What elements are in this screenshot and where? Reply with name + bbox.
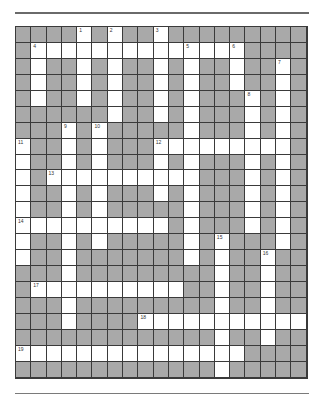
grid-cell-open[interactable] [62, 202, 77, 218]
grid-cell-open[interactable] [184, 170, 199, 186]
grid-cell-open[interactable] [184, 234, 199, 250]
grid-cell-open[interactable] [108, 218, 123, 234]
grid-cell-open[interactable] [62, 186, 77, 202]
grid-cell-open[interactable] [169, 139, 184, 155]
grid-cell-open[interactable] [123, 43, 138, 59]
grid-cell-open[interactable] [31, 218, 46, 234]
grid-cell-open[interactable] [276, 123, 291, 139]
grid-cell-open[interactable] [261, 330, 276, 346]
grid-cell-open[interactable] [215, 250, 230, 266]
grid-cell-open[interactable] [184, 123, 199, 139]
grid-cell-open[interactable] [47, 43, 62, 59]
grid-cell-open[interactable] [276, 234, 291, 250]
grid-cell-open[interactable] [138, 218, 153, 234]
grid-cell-open[interactable] [215, 346, 230, 362]
grid-cell-open[interactable] [62, 170, 77, 186]
grid-cell-open[interactable] [184, 202, 199, 218]
grid-cell-open[interactable]: 10 [92, 123, 107, 139]
grid-cell-open[interactable] [77, 43, 92, 59]
grid-cell-open[interactable] [276, 107, 291, 123]
grid-cell-open[interactable] [230, 59, 245, 75]
grid-cell-open[interactable] [62, 43, 77, 59]
grid-cell-open[interactable] [276, 170, 291, 186]
grid-cell-open[interactable] [92, 43, 107, 59]
grid-cell-open[interactable] [245, 139, 260, 155]
grid-cell-open[interactable] [215, 43, 230, 59]
grid-cell-open[interactable] [230, 75, 245, 91]
grid-cell-open[interactable]: 15 [215, 234, 230, 250]
grid-cell-open[interactable] [184, 107, 199, 123]
grid-cell-open[interactable] [154, 59, 169, 75]
grid-cell-open[interactable] [31, 346, 46, 362]
grid-cell-open[interactable] [16, 186, 31, 202]
grid-cell-open[interactable] [92, 282, 107, 298]
grid-cell-open[interactable]: 12 [154, 139, 169, 155]
grid-cell-open[interactable]: 3 [154, 27, 169, 43]
grid-cell-open[interactable] [16, 170, 31, 186]
grid-cell-open[interactable] [31, 91, 46, 107]
grid-cell-open[interactable] [123, 346, 138, 362]
grid-cell-open[interactable] [154, 43, 169, 59]
grid-cell-open[interactable] [62, 250, 77, 266]
grid-cell-open[interactable] [200, 314, 215, 330]
grid-cell-open[interactable] [245, 314, 260, 330]
grid-cell-open[interactable] [16, 234, 31, 250]
grid-cell-open[interactable] [200, 346, 215, 362]
grid-cell-open[interactable] [31, 75, 46, 91]
grid-cell-open[interactable] [245, 107, 260, 123]
grid-cell-open[interactable]: 18 [138, 314, 153, 330]
grid-cell-open[interactable] [261, 282, 276, 298]
grid-cell-open[interactable] [123, 282, 138, 298]
grid-cell-open[interactable] [169, 43, 184, 59]
grid-cell-open[interactable] [230, 314, 245, 330]
grid-cell-open[interactable] [47, 282, 62, 298]
grid-cell-open[interactable] [62, 298, 77, 314]
grid-cell-open[interactable] [92, 186, 107, 202]
grid-cell-open[interactable]: 19 [16, 346, 31, 362]
grid-cell-open[interactable] [276, 91, 291, 107]
grid-cell-open[interactable] [154, 107, 169, 123]
grid-cell-open[interactable] [138, 346, 153, 362]
grid-cell-open[interactable] [169, 346, 184, 362]
grid-cell-open[interactable] [276, 155, 291, 171]
grid-cell-open[interactable] [77, 346, 92, 362]
grid-cell-open[interactable]: 13 [47, 170, 62, 186]
grid-cell-open[interactable] [245, 218, 260, 234]
grid-cell-open[interactable] [92, 234, 107, 250]
grid-cell-open[interactable] [154, 346, 169, 362]
grid-cell-open[interactable] [245, 186, 260, 202]
grid-cell-open[interactable]: 2 [108, 27, 123, 43]
grid-cell-open[interactable] [62, 314, 77, 330]
grid-cell-open[interactable] [154, 91, 169, 107]
grid-cell-open[interactable] [230, 346, 245, 362]
grid-cell-open[interactable] [77, 59, 92, 75]
grid-cell-open[interactable] [92, 139, 107, 155]
grid-cell-open[interactable] [276, 218, 291, 234]
grid-cell-open[interactable] [92, 218, 107, 234]
grid-cell-open[interactable] [276, 139, 291, 155]
grid-cell-open[interactable] [261, 139, 276, 155]
grid-cell-open[interactable] [154, 186, 169, 202]
grid-cell-open[interactable] [16, 250, 31, 266]
grid-cell-open[interactable]: 6 [230, 43, 245, 59]
grid-cell-open[interactable] [154, 170, 169, 186]
grid-cell-open[interactable] [108, 43, 123, 59]
grid-cell-open[interactable] [92, 170, 107, 186]
grid-cell-open[interactable] [215, 139, 230, 155]
grid-cell-open[interactable] [47, 218, 62, 234]
grid-cell-open[interactable]: 7 [276, 59, 291, 75]
grid-cell-open[interactable] [245, 202, 260, 218]
grid-cell-open[interactable] [138, 282, 153, 298]
grid-cell-open[interactable]: 5 [184, 43, 199, 59]
grid-cell-open[interactable] [138, 170, 153, 186]
grid-cell-open[interactable] [138, 43, 153, 59]
grid-cell-open[interactable]: 11 [16, 139, 31, 155]
grid-cell-open[interactable] [108, 282, 123, 298]
grid-cell-open[interactable] [108, 59, 123, 75]
grid-cell-open[interactable] [16, 202, 31, 218]
grid-cell-open[interactable] [108, 91, 123, 107]
grid-cell-open[interactable] [154, 282, 169, 298]
grid-cell-open[interactable]: 14 [16, 218, 31, 234]
grid-cell-open[interactable] [154, 155, 169, 171]
grid-cell-open[interactable] [123, 218, 138, 234]
